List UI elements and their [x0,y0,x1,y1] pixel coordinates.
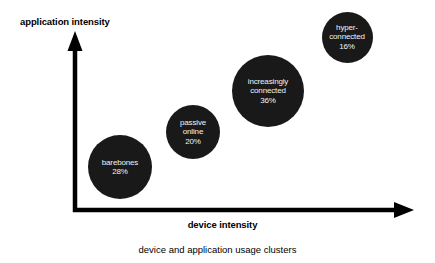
bubble-label: increasingly [248,77,288,87]
bubble-chart-figure: application intensity device intensity b… [0,0,435,263]
y-axis-title: application intensity [20,17,110,27]
bubble-barebones[interactable]: barebones 28% [88,135,152,199]
y-axis-arrowhead-icon [68,31,83,51]
bubble-value: 20% [185,137,201,147]
bubble-label: hyper- [336,23,358,33]
bubble-label: online [183,127,203,137]
x-axis-arrowhead-icon [394,202,414,218]
bubble-value: 36% [260,96,276,106]
bubble-value: 28% [112,167,128,177]
bubble-value: 16% [339,42,355,52]
bubble-label: barebones [102,158,138,168]
bubble-label: passive [180,118,206,128]
bubble-passive-online[interactable]: passive online 20% [166,105,220,159]
bubble-hyper-connected[interactable]: hyper- connected 16% [322,12,373,63]
bubble-label: connected [329,32,365,42]
figure-caption: device and application usage clusters [0,245,435,255]
plot-area: application intensity device intensity b… [0,0,435,263]
bubble-label: connected [250,86,286,96]
bubble-increasingly-connected[interactable]: increasingly connected 36% [232,55,304,127]
x-axis-title: device intensity [0,220,435,230]
